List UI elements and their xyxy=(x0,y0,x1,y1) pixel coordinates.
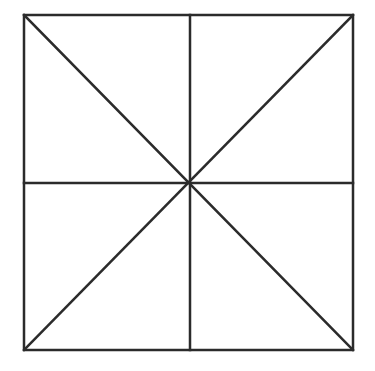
division-lines xyxy=(24,15,353,350)
diagram-canvas xyxy=(0,0,375,371)
